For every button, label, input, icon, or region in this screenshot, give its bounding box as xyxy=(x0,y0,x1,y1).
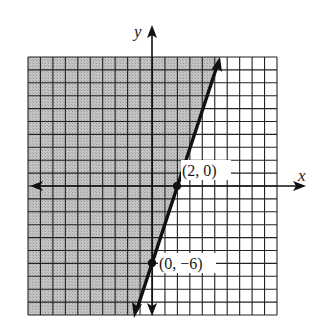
point-label-0-neg6: (0, −6) xyxy=(159,255,203,273)
graph: x y (2, 0) (0, −6) xyxy=(0,0,329,335)
point-label-2-0: (2, 0) xyxy=(182,162,217,180)
x-axis-label: x xyxy=(297,166,306,185)
point-2-0 xyxy=(173,182,181,190)
point-0-neg6 xyxy=(148,259,156,267)
y-axis-label: y xyxy=(132,22,142,41)
